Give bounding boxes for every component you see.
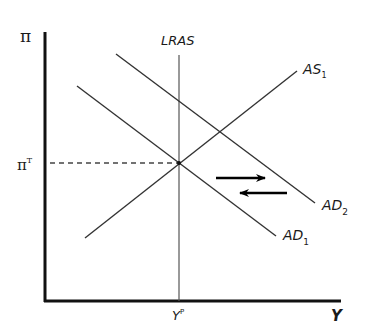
- y-axis-label: π: [20, 26, 31, 46]
- inflation-target-label: πT: [17, 156, 33, 174]
- ad2-curve: [116, 54, 315, 203]
- ad-as-diagram: π πT LRAS AS1 AD2 AD1 YP Y: [0, 0, 368, 336]
- lras-label: LRAS: [161, 33, 194, 48]
- equilibrium-point: [177, 161, 181, 165]
- potential-output-label: YP: [172, 308, 184, 323]
- ad2-label: AD2: [321, 197, 348, 217]
- ad1-curve: [77, 86, 276, 236]
- as1-label: AS1: [302, 61, 327, 80]
- x-axis-label: Y: [331, 307, 344, 325]
- ad1-label: AD1: [282, 227, 309, 247]
- as1-curve: [85, 71, 297, 238]
